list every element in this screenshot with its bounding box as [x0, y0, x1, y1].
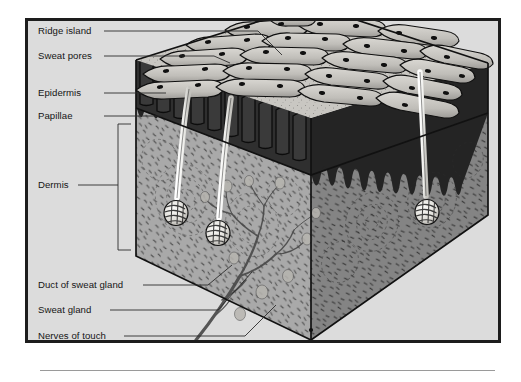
label-ridge-island: Ridge island	[38, 25, 91, 36]
label-sweat-pores: Sweat pores	[38, 50, 92, 61]
skin-anatomy-figure: Ridge island Sweat pores Epidermis Papil…	[0, 0, 521, 382]
label-dermis: Dermis	[38, 179, 69, 190]
label-group: Ridge island Sweat pores Epidermis Papil…	[38, 25, 123, 341]
label-epidermis: Epidermis	[38, 87, 81, 98]
label-nerves-of-touch: Nerves of touch	[38, 330, 106, 341]
skin-block-illustration	[136, 5, 493, 340]
label-papillae: Papillae	[38, 110, 73, 121]
label-sweat-gland: Sweat gland	[38, 304, 91, 315]
label-duct-of-sweat-gland: Duct of sweat gland	[38, 279, 123, 290]
figure-bottom-rule	[40, 370, 495, 371]
skin-diagram-svg: Ridge island Sweat pores Epidermis Papil…	[0, 0, 521, 382]
block-bottom-shadow	[309, 328, 313, 332]
